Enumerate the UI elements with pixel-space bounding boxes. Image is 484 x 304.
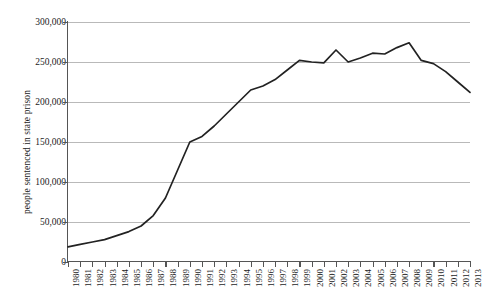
x-tick-mark: [92, 262, 93, 267]
x-tick-mark: [433, 262, 434, 267]
x-tick-label: 1996: [267, 269, 276, 304]
x-tick-label: 1994: [243, 269, 252, 304]
x-tick-label: 2006: [389, 269, 398, 304]
x-tick-label: 1999: [303, 269, 312, 304]
x-tick-label: 1992: [218, 269, 227, 304]
x-tick-label: 1984: [121, 269, 130, 304]
x-tick-label: 1985: [133, 269, 142, 304]
x-tick-mark: [251, 262, 252, 267]
x-tick-mark: [105, 262, 106, 267]
x-tick-mark: [446, 262, 447, 267]
x-tick-label: 2004: [364, 269, 373, 304]
x-tick-mark: [129, 262, 130, 267]
x-tick-label: 1983: [109, 269, 118, 304]
x-tick-mark: [397, 262, 398, 267]
x-tick-mark: [165, 262, 166, 267]
x-tick-label: 2009: [425, 269, 434, 304]
x-tick-mark: [153, 262, 154, 267]
x-tick-label: 2003: [352, 269, 361, 304]
x-tick-label: 1982: [96, 269, 105, 304]
x-tick-mark: [263, 262, 264, 267]
x-tick-mark: [141, 262, 142, 267]
x-tick-label: 2012: [462, 269, 471, 304]
x-tick-mark: [117, 262, 118, 267]
x-tick-mark: [68, 262, 69, 267]
x-tick-mark: [190, 262, 191, 267]
x-tick-mark: [324, 262, 325, 267]
x-tick-mark: [373, 262, 374, 267]
x-tick-mark: [239, 262, 240, 267]
x-tick-mark: [178, 262, 179, 267]
x-tick-label: 1989: [182, 269, 191, 304]
x-tick-mark: [214, 262, 215, 267]
x-tick-label: 2013: [474, 269, 483, 304]
x-tick-label: 2000: [316, 269, 325, 304]
x-tick-mark: [385, 262, 386, 267]
x-tick-label: 2007: [401, 269, 410, 304]
x-tick-mark: [421, 262, 422, 267]
x-tick-label: 2011: [450, 269, 459, 304]
x-tick-mark: [470, 262, 471, 267]
x-tick-label: 1995: [255, 269, 264, 304]
x-tick-label: 1987: [157, 269, 166, 304]
x-tick-mark: [336, 262, 337, 267]
x-tick-label: 1998: [291, 269, 300, 304]
x-tick-label: 1993: [230, 269, 239, 304]
x-tick-mark: [80, 262, 81, 267]
x-tick-mark: [202, 262, 203, 267]
x-tick-label: 2008: [413, 269, 422, 304]
x-tick-mark: [458, 262, 459, 267]
x-tick-label: 1990: [194, 269, 203, 304]
x-tick-mark: [287, 262, 288, 267]
x-tick-label: 1988: [169, 269, 178, 304]
x-tick-mark: [299, 262, 300, 267]
x-tick-mark: [348, 262, 349, 267]
x-tick-label: 2002: [340, 269, 349, 304]
x-tick-label: 2001: [328, 269, 337, 304]
x-tick-label: 1981: [84, 269, 93, 304]
x-tick-label: 2010: [437, 269, 446, 304]
x-tick-label: 1980: [72, 269, 81, 304]
x-axis-ticks: 1980198119821983198419851986198719881989…: [0, 0, 484, 304]
x-tick-label: 1991: [206, 269, 215, 304]
x-tick-mark: [226, 262, 227, 267]
x-tick-mark: [360, 262, 361, 267]
x-tick-label: 1997: [279, 269, 288, 304]
x-tick-mark: [312, 262, 313, 267]
x-tick-label: 2005: [377, 269, 386, 304]
x-tick-mark: [275, 262, 276, 267]
x-tick-mark: [409, 262, 410, 267]
line-chart-figure: people sentenced in state prison 050,000…: [0, 0, 484, 304]
x-tick-label: 1986: [145, 269, 154, 304]
